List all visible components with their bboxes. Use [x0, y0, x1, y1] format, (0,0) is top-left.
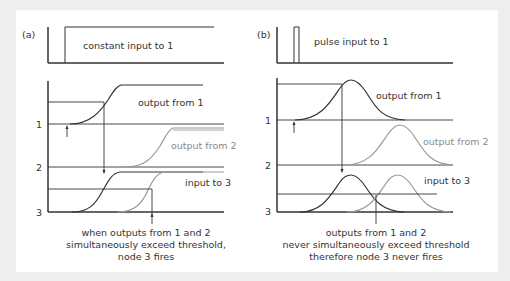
- panel-b-caption-line-3: therefore node 3 never fires: [309, 251, 442, 262]
- panel-b: (b) pulse input to 1 1 2 3: [257, 27, 489, 262]
- constant-input-caption: constant input to 1: [83, 40, 173, 51]
- panel-a: (a) constant input to 1 1 2 3: [22, 27, 237, 262]
- y-tick-1: 1: [265, 115, 271, 126]
- y-tick-2: 2: [265, 160, 271, 171]
- panel-b-caption-line-1: outputs from 1 and 2: [326, 227, 426, 238]
- input-to-3-label: input to 3: [424, 175, 470, 186]
- output-from-1-label: output from 1: [138, 97, 204, 108]
- y-tick-1: 1: [36, 119, 42, 130]
- y-tick-3: 3: [265, 206, 271, 217]
- neuron-firing-diagram: (a) constant input to 1 1 2 3: [0, 0, 510, 281]
- panel-b-caption-line-2: never simultaneously exceed threshold: [282, 239, 469, 250]
- output-from-2-label: output from 2: [423, 136, 489, 147]
- y-tick-3: 3: [36, 207, 42, 218]
- input-to-3-label: input to 3: [185, 177, 231, 188]
- panel-a-caption-line-1: when outputs from 1 and 2: [81, 227, 210, 238]
- panel-b-output-plot: 1 2 3: [265, 78, 489, 262]
- panel-a-label: (a): [22, 29, 35, 40]
- output-from-1-label: output from 1: [376, 90, 442, 101]
- panel-a-caption-line-3: node 3 fires: [118, 251, 174, 262]
- panel-b-label: (b): [257, 29, 270, 40]
- panel-a-input-plot: constant input to 1: [48, 27, 224, 63]
- output-from-2-label: output from 2: [171, 140, 237, 151]
- panel-b-input-plot: pulse input to 1: [277, 27, 453, 63]
- panel-a-output-plot: 1 2 3: [36, 81, 237, 262]
- pulse-input-caption: pulse input to 1: [314, 36, 389, 47]
- panel-a-caption-line-2: simultaneously exceed threshold,: [66, 239, 226, 250]
- y-tick-2: 2: [36, 162, 42, 173]
